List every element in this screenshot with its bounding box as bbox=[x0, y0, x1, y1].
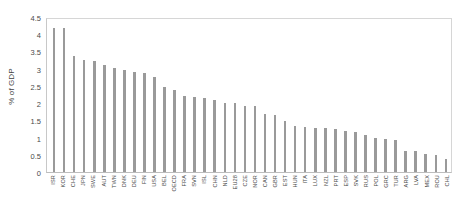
x-axis-tick: ISL bbox=[201, 175, 207, 184]
x-axis-tick: LVA bbox=[413, 175, 419, 185]
x-axis-tick: ITA bbox=[302, 175, 308, 184]
y-axis-tick: 3.5 bbox=[31, 48, 41, 57]
bar bbox=[394, 140, 397, 172]
bar-chart: % of GDP 00.511.522.533.544.5 ISRKORCHEJ… bbox=[0, 0, 460, 216]
x-axis-tick-slot: SWE bbox=[88, 174, 98, 216]
bar bbox=[274, 115, 277, 172]
y-axis-tick: 4.5 bbox=[31, 14, 41, 23]
bar-slot bbox=[170, 19, 180, 172]
y-axis-tick: 0 bbox=[37, 169, 41, 178]
x-axis-tick-slot: GBR bbox=[270, 174, 280, 216]
x-axis-tick-slot: NLD bbox=[220, 174, 230, 216]
bar bbox=[364, 135, 367, 172]
bar bbox=[183, 96, 186, 173]
x-axis-tick-slot: CZE bbox=[240, 174, 250, 216]
x-axis-tick: SWE bbox=[90, 175, 96, 188]
x-axis-tick: CHE bbox=[70, 175, 76, 187]
x-axis-tick-slot: CHN bbox=[210, 174, 220, 216]
x-axis-tick-slot: GRC bbox=[381, 174, 391, 216]
x-axis-tick: ROU bbox=[434, 175, 440, 188]
y-axis-tick: 4 bbox=[37, 31, 41, 40]
bar bbox=[294, 126, 297, 172]
bar bbox=[445, 159, 448, 172]
bar bbox=[133, 72, 136, 172]
x-axis-tick-slot: DNK bbox=[119, 174, 129, 216]
x-axis-tick-slot: KOR bbox=[58, 174, 68, 216]
bar bbox=[374, 138, 377, 172]
x-axis-tick-slot: TUR bbox=[391, 174, 401, 216]
x-axis-tick: DNK bbox=[121, 175, 127, 187]
x-axis-tick: LUX bbox=[312, 175, 318, 186]
y-axis-title-label: % of GDP bbox=[7, 68, 16, 104]
bar bbox=[224, 103, 227, 172]
bar bbox=[173, 90, 176, 172]
bar-slot bbox=[330, 19, 340, 172]
x-axis-tick-slot: BEL bbox=[159, 174, 169, 216]
bar-slot bbox=[69, 19, 79, 172]
bar-slot bbox=[49, 19, 59, 172]
bar bbox=[193, 97, 196, 172]
x-axis-tick: ESP bbox=[343, 175, 349, 187]
bar-slot bbox=[99, 19, 109, 172]
bar bbox=[404, 151, 407, 172]
bar-slot bbox=[360, 19, 370, 172]
x-axis-tick-slot: DEU bbox=[129, 174, 139, 216]
x-axis-tick-slot: HUN bbox=[290, 174, 300, 216]
x-axis-tick: AUT bbox=[101, 175, 107, 187]
x-axis-tick: MEX bbox=[424, 175, 430, 187]
x-axis-tick: NLD bbox=[222, 175, 228, 187]
bar-slot bbox=[260, 19, 270, 172]
y-axis-tick-labels: 00.511.522.533.544.5 bbox=[18, 18, 44, 173]
x-axis-tick: KOR bbox=[60, 175, 66, 187]
x-axis-tick-slot: LVA bbox=[411, 174, 421, 216]
x-axis-tick: ISR bbox=[50, 175, 56, 185]
x-axis-tick: EST bbox=[282, 175, 288, 186]
x-axis-tick: TWN bbox=[111, 175, 117, 188]
x-axis-tick: HUN bbox=[292, 175, 298, 187]
x-axis-tick: PRT bbox=[333, 175, 339, 186]
bar-slot bbox=[200, 19, 210, 172]
bar bbox=[163, 87, 166, 172]
bar bbox=[304, 127, 307, 172]
x-axis-tick-slot: CHE bbox=[68, 174, 78, 216]
x-axis-tick: SVN bbox=[191, 175, 197, 187]
x-axis-tick: RUS bbox=[363, 175, 369, 187]
bar-slot bbox=[381, 19, 391, 172]
bar-slot bbox=[431, 19, 441, 172]
y-axis-tick: 2 bbox=[37, 100, 41, 109]
bar bbox=[344, 131, 347, 172]
x-axis-tick-slot: JPN bbox=[78, 174, 88, 216]
bar-slot bbox=[280, 19, 290, 172]
bar bbox=[213, 100, 216, 172]
x-axis-tick-slot: SVN bbox=[189, 174, 199, 216]
x-axis-tick-slot: POL bbox=[371, 174, 381, 216]
bar bbox=[435, 155, 438, 172]
x-axis-tick-slot: TWN bbox=[109, 174, 119, 216]
x-axis-tick: JPN bbox=[80, 175, 86, 186]
bar bbox=[324, 128, 327, 172]
y-axis-tick: 2.5 bbox=[31, 82, 41, 91]
bar bbox=[113, 68, 116, 172]
x-axis-tick-slot: SVK bbox=[351, 174, 361, 216]
x-axis-tick-slot: EST bbox=[280, 174, 290, 216]
bar bbox=[53, 28, 56, 173]
bar bbox=[314, 128, 317, 172]
x-axis-tick-slot: RUS bbox=[361, 174, 371, 216]
x-axis-tick-slot: ARG bbox=[401, 174, 411, 216]
bar-slot bbox=[441, 19, 451, 172]
bar-slot bbox=[160, 19, 170, 172]
x-axis-tick: GBR bbox=[272, 175, 278, 187]
bar-slot bbox=[350, 19, 360, 172]
bar bbox=[73, 56, 76, 172]
x-axis-tick-slot: AUT bbox=[98, 174, 108, 216]
bar bbox=[244, 106, 247, 172]
x-axis-tick: BEL bbox=[161, 175, 167, 186]
bar-slot bbox=[149, 19, 159, 172]
bar bbox=[414, 151, 417, 172]
bar-slot bbox=[310, 19, 320, 172]
bar bbox=[203, 98, 206, 172]
x-axis-tick-slot: ISR bbox=[48, 174, 58, 216]
x-axis-tick-slot: ROU bbox=[432, 174, 442, 216]
x-axis-tick: ARG bbox=[403, 175, 409, 187]
bar bbox=[264, 114, 267, 172]
